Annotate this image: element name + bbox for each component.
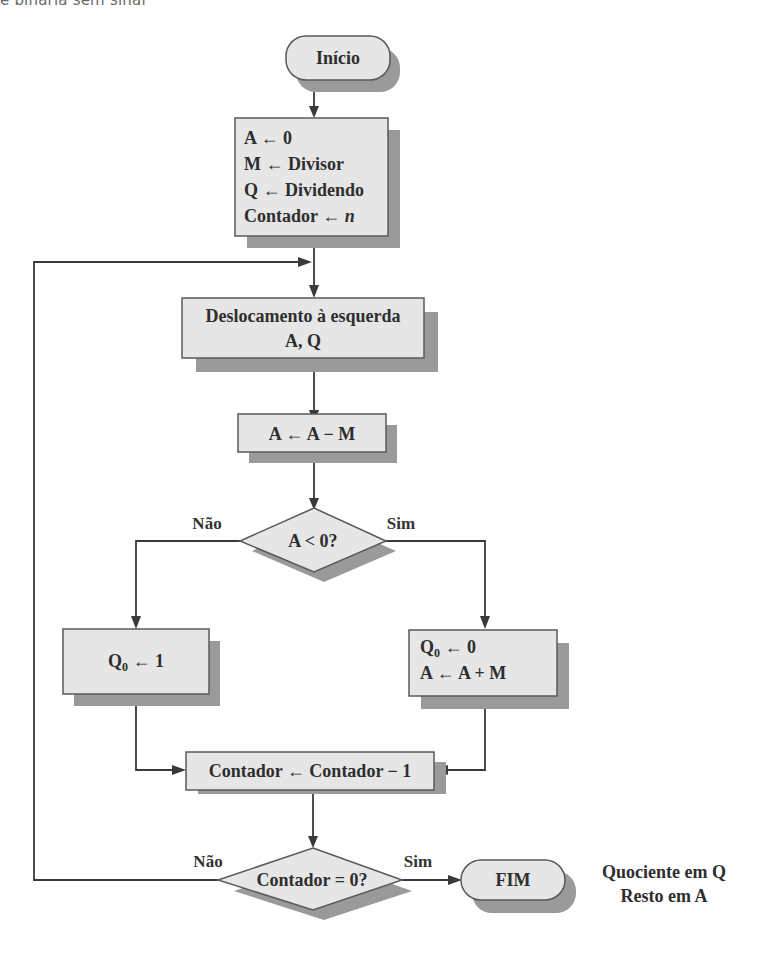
start-node: Início [286, 36, 400, 92]
decision-counter-yes-label: Sim [404, 852, 432, 871]
subtract-label: A ← A − M [269, 424, 355, 444]
init-line-m: M ← Divisor [244, 154, 344, 174]
set-one-node: Q0 ← 1 [63, 629, 220, 706]
set-one-label: Q0 ← 1 [108, 651, 164, 674]
init-line-counter: Contador ← n [244, 206, 355, 226]
decision-counter-node: Contador = 0? Não Sim [193, 848, 432, 920]
set-zero-node: Q0 ← 0 A ← A + M [409, 630, 569, 709]
result-remainder: Resto em A [621, 886, 708, 906]
decision-sign-node: A < 0? Não Sim [192, 508, 415, 582]
decision-counter-no-label: Não [193, 852, 222, 871]
set-zero-line-2: A ← A + M [420, 663, 506, 683]
decision-counter-label: Contador = 0? [257, 870, 368, 890]
set-zero-line-1: Q0 ← 0 [420, 637, 476, 660]
result-quotient: Quociente em Q [602, 862, 726, 882]
decision-sign-label: A < 0? [288, 531, 337, 551]
init-line-a: A ← 0 [244, 128, 292, 148]
result-note: Quociente em Q Resto em A [602, 862, 726, 906]
end-label: FIM [496, 870, 531, 890]
end-node: FIM [461, 860, 576, 913]
flowchart: Início A ← 0 M ← Divisor Q ← Dividendo C… [0, 0, 761, 956]
subtract-node: A ← A − M [238, 414, 397, 463]
decrement-node: Contador ← Contador − 1 [186, 752, 446, 794]
start-label: Início [316, 48, 360, 68]
init-line-q: Q ← Dividendo [244, 180, 364, 200]
init-node: A ← 0 M ← Divisor Q ← Dividendo Contador… [235, 118, 400, 248]
shift-line-1: Deslocamento à esquerda [206, 306, 401, 326]
shift-node: Deslocamento à esquerda A, Q [182, 298, 438, 372]
decision-sign-yes-label: Sim [387, 514, 415, 533]
shift-line-2: A, Q [285, 331, 321, 351]
decrement-label: Contador ← Contador − 1 [209, 761, 412, 781]
decision-sign-no-label: Não [192, 514, 221, 533]
